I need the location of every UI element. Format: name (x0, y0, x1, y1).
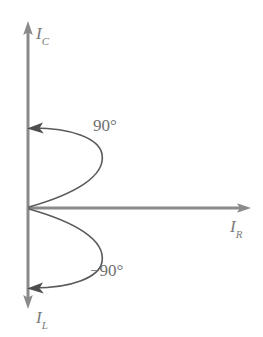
phasor-diagram: IC IR IL 90° −90° (0, 0, 263, 337)
axis-label-il-symbol: I (36, 308, 42, 327)
axis-label-ir: IR (230, 218, 242, 238)
axis-label-il: IL (36, 309, 48, 329)
positive-ninety-arc-path (29, 128, 102, 207)
axis-label-ir-symbol: I (230, 217, 236, 236)
axis-label-ic-symbol: I (36, 24, 42, 43)
axis-label-ic-subscript: C (42, 35, 49, 47)
angle-label-positive-ninety: 90° (93, 117, 117, 134)
axis-label-il-subscript: L (42, 319, 48, 331)
diagram-canvas (0, 0, 263, 337)
axis-label-ir-subscript: R (236, 228, 243, 240)
angle-label-negative-ninety: −90° (90, 262, 123, 279)
axis-label-ic: IC (36, 25, 49, 45)
